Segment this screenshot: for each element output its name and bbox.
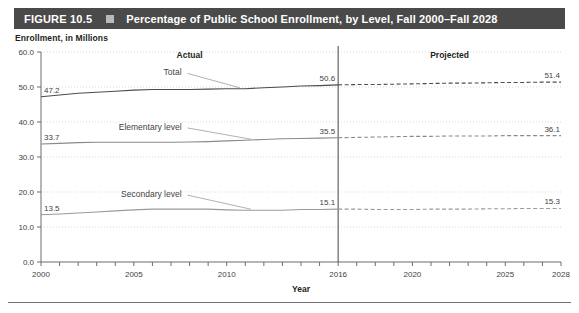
series-line-projected-1	[338, 136, 561, 138]
y-axis-tick-label: 40.0	[18, 118, 34, 127]
period-label-projected: Projected	[430, 50, 469, 60]
y-axis-tick-label: 0.0	[23, 258, 35, 267]
series-label-2: Secondary level	[121, 189, 182, 199]
line-chart-svg: 0.010.020.030.040.050.060.02000200520102…	[0, 0, 579, 313]
bottom-divider-rule	[8, 302, 571, 303]
figure-page: FIGURE 10.5 Percentage of Public School …	[0, 0, 579, 313]
x-axis-title: Year	[292, 284, 311, 294]
series-label-1: Elementary level	[119, 122, 182, 132]
x-axis-tick-label: 2020	[404, 270, 422, 279]
data-value-label: 51.4	[544, 71, 560, 80]
series-line-actual-2	[41, 209, 338, 215]
y-axis-tick-label: 30.0	[18, 153, 34, 162]
series-leader-line-1	[188, 128, 251, 139]
series-label-0: Total	[164, 67, 182, 77]
y-axis-tick-label: 10.0	[18, 223, 34, 232]
data-value-label: 13.5	[44, 204, 60, 213]
data-value-label: 36.1	[544, 125, 560, 134]
data-value-label: 50.6	[320, 74, 336, 83]
x-axis-tick-label: 2016	[329, 270, 347, 279]
period-label-actual: Actual	[177, 50, 203, 60]
x-axis-tick-label: 2005	[125, 270, 143, 279]
data-value-label: 35.5	[320, 127, 336, 136]
chart-area: 0.010.020.030.040.050.060.02000200520102…	[0, 0, 579, 313]
data-value-label: 15.1	[320, 198, 336, 207]
x-axis-tick-label: 2025	[496, 270, 514, 279]
series-line-actual-0	[41, 85, 338, 97]
y-axis-tick-label: 50.0	[18, 83, 34, 92]
x-axis-tick-label: 2010	[218, 270, 236, 279]
y-axis-tick-label: 20.0	[18, 188, 34, 197]
data-value-label: 15.3	[544, 197, 560, 206]
series-line-projected-0	[338, 82, 561, 85]
data-value-label: 47.2	[44, 86, 60, 95]
series-line-projected-2	[338, 208, 561, 209]
series-leader-line-0	[188, 73, 240, 87]
series-leader-line-2	[188, 195, 251, 209]
series-line-actual-1	[41, 138, 338, 144]
y-axis-tick-label: 60.0	[18, 48, 34, 57]
x-axis-tick-label: 2028	[552, 270, 570, 279]
data-value-label: 33.7	[44, 133, 60, 142]
x-axis-tick-label: 2000	[32, 270, 50, 279]
